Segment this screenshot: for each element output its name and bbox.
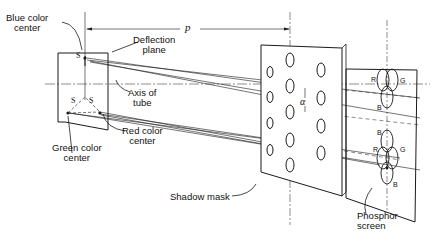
deflection-plane-panel <box>58 53 108 130</box>
phosphor-b-label: B <box>393 181 398 188</box>
label-line: center <box>122 136 163 146</box>
phosphor-g-label: G <box>400 77 405 84</box>
label-line: plane <box>133 45 175 55</box>
phosphor-r-label: R <box>371 76 376 83</box>
phosphor-triad-upper <box>377 69 398 108</box>
label-line: center <box>52 153 102 163</box>
crt-shadow-mask-diagram: Blue color center Deflection plane Axis … <box>0 0 438 238</box>
label-axis-of-tube: Axis of tube <box>128 88 157 108</box>
source-marker-s: S <box>71 97 75 105</box>
phosphor-b-label: B <box>377 104 382 111</box>
label-phosphor-screen: Phosphor screen <box>357 211 398 231</box>
phosphor-b-label: B <box>377 129 382 136</box>
label-line: screen <box>357 221 398 231</box>
label-distance-p: p <box>185 22 191 33</box>
arrow-right-icon <box>284 28 290 31</box>
label-blue-color-center: Blue color center <box>6 13 48 33</box>
label-line: tube <box>128 98 157 108</box>
source-marker-s: S <box>89 97 93 105</box>
source-marker-s: S <box>76 52 80 60</box>
arrow-left-icon <box>86 28 92 31</box>
diagram-drawing <box>0 0 438 238</box>
label-red-color-center: Red color center <box>122 126 163 146</box>
phosphor-r-label: R <box>373 146 378 153</box>
phosphor-g-label: G <box>400 146 405 153</box>
label-shadow-mask: Shadow mask <box>170 192 230 202</box>
label-green-color-center: Green color center <box>52 143 102 163</box>
label-angle-alpha: α <box>300 96 305 107</box>
label-line: center <box>6 23 48 33</box>
label-deflection-plane: Deflection plane <box>133 35 175 55</box>
